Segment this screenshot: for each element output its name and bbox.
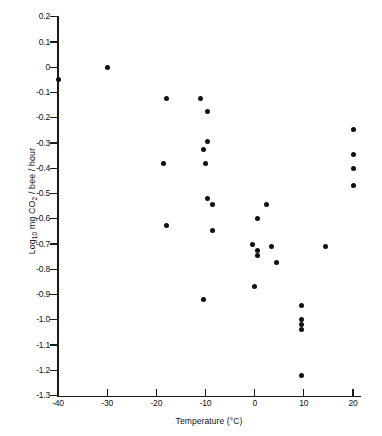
data-point (210, 202, 215, 207)
data-point (323, 244, 328, 249)
data-point (198, 96, 203, 101)
data-point (250, 242, 255, 247)
data-point (205, 139, 210, 144)
data-point (299, 303, 304, 308)
data-point (252, 284, 257, 289)
data-point (203, 161, 208, 166)
data-point (255, 216, 260, 221)
data-point (274, 260, 279, 265)
data-point (161, 161, 166, 166)
data-point (351, 127, 356, 132)
data-point (299, 327, 304, 332)
data-point (205, 109, 210, 114)
y-axis-title-sub-2: 2 (31, 197, 38, 201)
data-point (264, 202, 269, 207)
data-point (299, 373, 304, 378)
data-point (351, 183, 356, 188)
data-point (255, 253, 260, 258)
data-point (164, 96, 169, 101)
data-point (205, 196, 210, 201)
data-point (351, 152, 356, 157)
y-axis-title-prefix: Log (27, 239, 37, 254)
data-point (201, 147, 206, 152)
data-point (351, 166, 356, 171)
data-point (210, 228, 215, 233)
y-axis-title-suffix: / bee / hour (27, 148, 37, 197)
data-point (105, 65, 110, 70)
plot-data-area (0, 0, 382, 436)
data-point (164, 223, 169, 228)
x-axis-title: Temperature (°C) (57, 416, 361, 426)
y-axis-title-sub-10: 10 (31, 232, 38, 240)
scatter-plot-figure: 0.20.10-0.1-0.2-0.3-0.4-0.5-0.6-0.7-0.8-… (0, 0, 382, 436)
y-axis-title-mid: mg CO (27, 200, 37, 231)
data-point (201, 297, 206, 302)
data-point (56, 77, 61, 82)
data-point (269, 244, 274, 249)
y-axis-title: Log10 mg CO2 / bee / hour (27, 106, 37, 296)
